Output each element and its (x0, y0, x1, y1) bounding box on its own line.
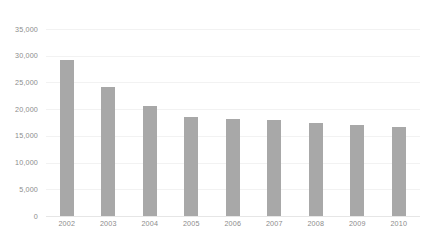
axis-baseline (46, 216, 420, 217)
y-tick-label-5000: 5,000 (0, 186, 38, 193)
x-tick-label-2009: 2009 (337, 220, 379, 227)
bar-slot-2008 (295, 29, 337, 216)
y-tick-label-35000: 35,000 (0, 26, 38, 33)
bar-slot-2009 (337, 29, 379, 216)
x-tick-label-2008: 2008 (295, 220, 337, 227)
x-tick-label-2006: 2006 (212, 220, 254, 227)
bar-2008[interactable] (309, 123, 323, 216)
bar-2004[interactable] (143, 106, 157, 216)
bar-slot-2007 (254, 29, 296, 216)
x-tick-label-2005: 2005 (171, 220, 213, 227)
x-tick-label-2010: 2010 (378, 220, 420, 227)
bar-2005[interactable] (184, 117, 198, 216)
bar-2010[interactable] (392, 127, 406, 216)
x-tick-label-2003: 2003 (88, 220, 130, 227)
y-tick-label-30000: 30,000 (0, 52, 38, 59)
bar-slot-2003 (88, 29, 130, 216)
bar-chart-figure: 35,000 30,000 25,000 20,000 15,000 10,00… (0, 0, 437, 250)
bar-2007[interactable] (267, 120, 281, 216)
bars-layer (46, 29, 420, 216)
bar-2006[interactable] (226, 119, 240, 216)
y-tick-label-10000: 10,000 (0, 159, 38, 166)
bar-slot-2010 (378, 29, 420, 216)
bar-slot-2006 (212, 29, 254, 216)
y-tick-label-0: 0 (0, 213, 38, 220)
bar-slot-2005 (171, 29, 213, 216)
y-tick-label-25000: 25,000 (0, 79, 38, 86)
x-tick-label-2004: 2004 (129, 220, 171, 227)
bar-slot-2002 (46, 29, 88, 216)
x-tick-label-2007: 2007 (254, 220, 296, 227)
y-tick-label-20000: 20,000 (0, 106, 38, 113)
bar-2003[interactable] (101, 87, 115, 216)
x-tick-label-2002: 2002 (46, 220, 88, 227)
bar-slot-2004 (129, 29, 171, 216)
bar-2009[interactable] (350, 125, 364, 216)
x-axis-tick-labels: 2002 2003 2004 2005 2006 2007 2008 2009 … (46, 220, 420, 234)
y-tick-label-15000: 15,000 (0, 132, 38, 139)
bar-2002[interactable] (60, 60, 74, 216)
